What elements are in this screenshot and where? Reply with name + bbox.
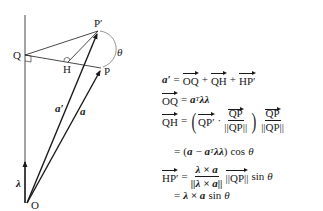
eq6-equals: =: [174, 190, 180, 201]
eq4-close: ): [224, 146, 228, 157]
eq3-close-paren: ): [252, 109, 257, 133]
point-label-o: O: [31, 199, 39, 211]
eq3-frac2-num: QP: [265, 108, 281, 121]
equation-hp-prime: HP′ = λ × a ||λ × a|| ||QP|| sin θ: [162, 164, 273, 189]
equation-qh-simplified: = ( a − aT λλ ) cos θ: [174, 146, 254, 157]
eq1-lhs: a′: [162, 74, 171, 85]
eq1-equals: =: [174, 74, 180, 85]
equation-oq: OQ = aT λλ: [162, 92, 209, 107]
eq3-lhs: QH: [162, 113, 178, 128]
right-angle-marker-q: [25, 55, 31, 62]
eq5-equals: =: [181, 171, 187, 182]
equation-a-prime-sum: a′ = OQ + QH + HP′: [162, 72, 256, 87]
eq5-frac-num: λ × a: [195, 164, 219, 177]
vector-a-arrow: [27, 71, 100, 203]
eq5-theta: θ: [267, 171, 272, 182]
eq3-dot: ·: [218, 115, 222, 126]
eq4-a: a: [187, 146, 193, 157]
eq2-lambda-lambda: λλ: [200, 94, 210, 105]
eq3-qp-prime: QP′: [198, 113, 214, 128]
eq6-cross: λ × a: [183, 190, 205, 201]
equation-hp-prime-simplified: = λ × a sin θ: [174, 190, 230, 201]
eq3-frac2-den: ||QP||: [260, 121, 285, 133]
vector-label-a-prime: a′: [55, 102, 64, 114]
vector-a-prime-arrow: [27, 34, 97, 203]
eq5-lhs: HP′: [162, 169, 178, 184]
eq5-sin: sin: [251, 171, 264, 182]
eq4-minus: −: [195, 146, 201, 157]
eq2-lhs: OQ: [162, 92, 178, 107]
eq1-plus-2: +: [230, 74, 236, 85]
eq4-theta: θ: [248, 146, 253, 157]
eq1-term-oq: OQ: [183, 72, 199, 87]
eq3-open-paren: (: [192, 109, 197, 133]
point-label-q: Q: [13, 49, 21, 61]
eq3-unit-fraction-2: QP ||QP||: [260, 108, 285, 133]
point-label-p: P: [104, 65, 110, 77]
eq4-lambda-lambda: λλ: [214, 146, 224, 157]
vector-label-a: a: [80, 105, 86, 117]
eq3-unit-fraction-1: QP ||QP||: [223, 108, 248, 133]
equation-qh: QH = ( QP′ · QP ||QP|| ) QP ||QP||: [162, 108, 287, 133]
angle-label-theta: θ: [117, 46, 123, 58]
eq4-equals: =: [174, 146, 180, 157]
eq1-term-qh: QH: [211, 72, 227, 87]
eq5-norm-qp: ||QP||: [226, 169, 249, 184]
eq6-theta: θ: [224, 190, 229, 201]
eq5-frac-den: ||λ × a||: [190, 177, 224, 189]
eq4-cos: cos: [230, 146, 245, 157]
eq3-frac1-den: ||QP||: [223, 121, 248, 133]
theta-arc: [100, 31, 116, 67]
point-label-h: H: [63, 63, 71, 75]
eq1-plus-1: +: [202, 74, 208, 85]
eq2-equals: =: [181, 94, 187, 105]
eq5-cross-unit-fraction: λ × a ||λ × a||: [190, 164, 224, 189]
eq1-term-hp-prime: HP′: [239, 72, 255, 87]
vector-label-lambda: λ: [15, 177, 21, 189]
point-label-p-prime: P′: [94, 17, 103, 29]
segment-q-pprime: [25, 31, 98, 55]
vector-rotation-diagram: Q H P′ P O θ a′ a λ: [0, 0, 160, 211]
eq3-frac1-num: QP: [228, 108, 244, 121]
eq3-equals: =: [181, 115, 187, 126]
eq6-sin: sin: [208, 190, 221, 201]
